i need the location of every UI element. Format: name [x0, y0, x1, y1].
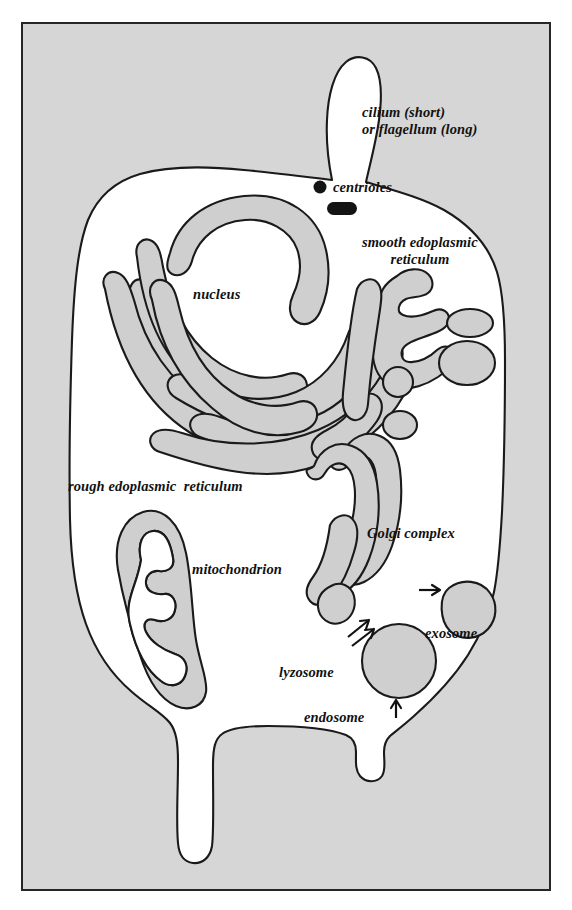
label-exosome: exosome: [425, 625, 477, 642]
label-endosome: endosome: [304, 709, 364, 726]
figure-frame-border: [21, 22, 551, 891]
label-centrioles: centrioles: [333, 179, 392, 196]
label-cilium: cilium (short) or flagellum (long): [362, 104, 478, 137]
label-nucleus: nucleus: [193, 286, 240, 303]
label-smooth-endoplasmic-reticulum: smooth edoplasmic reticulum: [362, 234, 478, 267]
label-golgi-complex: Golgi complex: [367, 525, 455, 542]
label-mitochondrion: mitochondrion: [192, 561, 282, 578]
figure-page: cilium (short) or flagellum (long) centr…: [0, 0, 572, 910]
label-rough-endoplasmic-reticulum: rough edoplasmic reticulum: [68, 478, 243, 495]
label-lyzosome: lyzosome: [279, 664, 334, 681]
